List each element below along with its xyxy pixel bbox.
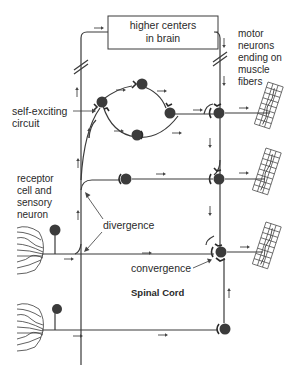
sensory-neuron-soma-1 <box>50 225 61 236</box>
arrow-right-icon <box>240 245 250 249</box>
arrow-down-icon <box>208 138 212 148</box>
arrow-right-icon <box>239 106 249 110</box>
arrow-down-icon <box>222 38 226 48</box>
muscle-fiber-1 <box>254 82 283 129</box>
higher-centers-box: higher centers in brain <box>108 16 218 49</box>
motor-neuron-soma-3 <box>216 247 227 258</box>
arrow-right-icon <box>193 108 203 112</box>
svg-text:self-exciting: self-exciting <box>12 105 68 117</box>
interneuron-soma-lower <box>220 324 231 335</box>
arrow-right-icon <box>156 172 166 176</box>
motor-neurons-label: motor neurons ending on muscle fibers <box>238 28 282 87</box>
svg-text:fibers: fibers <box>238 76 262 87</box>
arrow-right-icon <box>64 257 74 261</box>
sensory-neuron-2 <box>17 258 231 351</box>
arrow-right-icon <box>239 171 249 175</box>
svg-text:divergence: divergence <box>103 219 155 231</box>
svg-text:ending on: ending on <box>238 52 282 63</box>
muscle-fiber-2 <box>252 148 281 195</box>
svg-text:in brain: in brain <box>146 32 181 44</box>
motor-neuron-soma-1 <box>214 108 225 119</box>
arrow-icon <box>157 89 167 93</box>
arrow-up-icon <box>227 288 231 298</box>
convergence-label: convergence <box>131 259 212 275</box>
arrow-right-icon <box>158 333 168 337</box>
arrow-up-icon <box>75 87 79 97</box>
svg-text:motor: motor <box>238 28 264 39</box>
self-exciting-circuit: self-exciting circuit <box>12 79 220 181</box>
svg-text:convergence: convergence <box>131 262 191 274</box>
svg-text:higher centers: higher centers <box>130 19 197 31</box>
receptor-ending-icon <box>17 304 44 351</box>
spinal-cord-label: Spinal Cord <box>131 287 185 298</box>
sensory-neuron-soma-2 <box>52 304 62 314</box>
motor-neuron-soma-2 <box>214 174 225 185</box>
arrow-down-icon <box>208 206 212 216</box>
arrow-down-icon <box>222 76 226 86</box>
arrow-up-icon <box>76 210 80 220</box>
svg-text:circuit: circuit <box>12 117 40 129</box>
spinal-cord-circuit-diagram: higher centers in brain motor neurons en… <box>0 0 296 366</box>
svg-text:receptor: receptor <box>17 173 54 184</box>
svg-text:cell and: cell and <box>17 185 51 196</box>
svg-text:neurons: neurons <box>238 40 274 51</box>
arrow-up-icon <box>76 158 80 168</box>
arrow-right-icon <box>94 26 104 30</box>
brain-tracts <box>74 26 227 365</box>
neuron-soma-loop-top <box>137 79 148 90</box>
interneuron-soma-middle <box>121 174 132 185</box>
svg-text:sensory: sensory <box>17 197 52 208</box>
muscle-fibers <box>252 82 283 269</box>
muscle-fiber-3 <box>252 222 281 269</box>
neuron-soma-loop-left <box>97 97 108 108</box>
neuron-soma-loop-right <box>165 108 176 119</box>
divergence-branch <box>76 158 213 220</box>
svg-text:neuron: neuron <box>17 209 48 220</box>
divergence-label: divergence <box>84 192 155 252</box>
arrow-icon <box>172 131 182 135</box>
svg-text:muscle: muscle <box>238 64 270 75</box>
receptor-ending-icon <box>17 227 44 274</box>
